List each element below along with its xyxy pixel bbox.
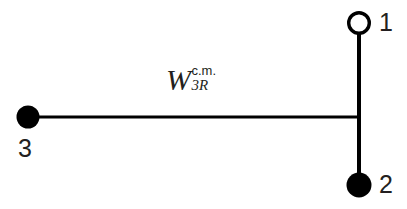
node-marker-1 xyxy=(349,13,370,34)
vector-symbol: W xyxy=(166,63,191,96)
diagram-canvas xyxy=(0,0,407,209)
vector-scripts: c.m.3R xyxy=(192,64,217,92)
node-label-2: 2 xyxy=(379,172,393,197)
node-label-3: 3 xyxy=(18,136,32,161)
vector-superscript: c.m. xyxy=(192,64,217,77)
node-marker-2 xyxy=(347,173,372,198)
vector-label-w-3r-cm: Wc.m.3R xyxy=(166,64,215,95)
node-label-1: 1 xyxy=(379,10,393,35)
vector-subscript: 3R xyxy=(192,78,217,92)
node-marker-3 xyxy=(17,106,40,129)
figure-root: 1 2 3 Wc.m.3R xyxy=(0,0,407,209)
